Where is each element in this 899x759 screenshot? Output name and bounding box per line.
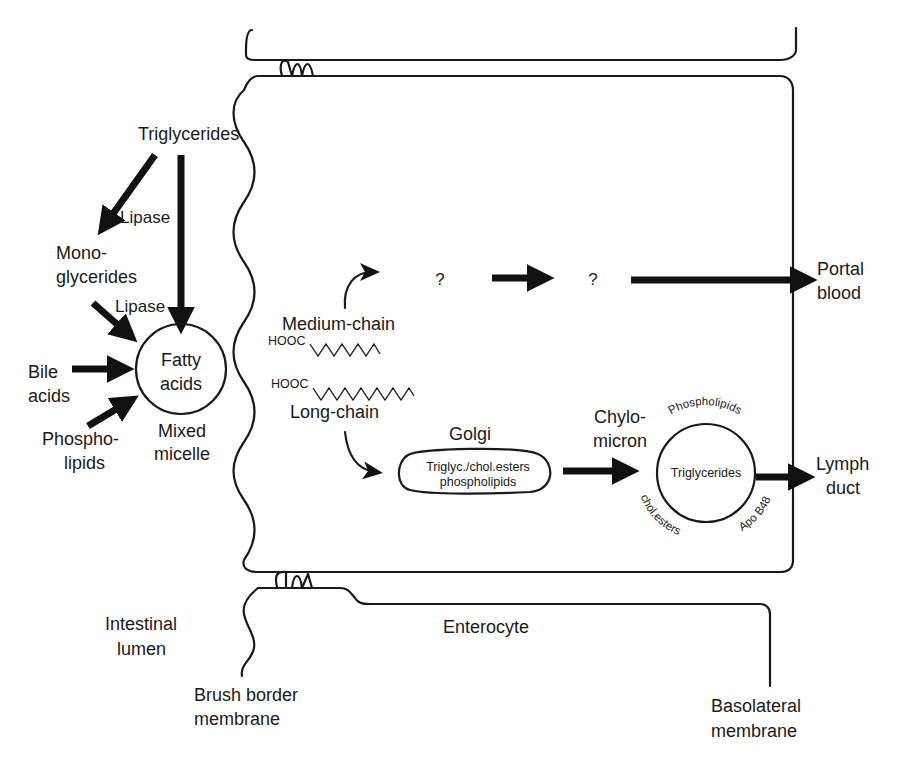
tight-junction-bottom	[276, 572, 312, 588]
medium-chain-curved-arrow	[345, 272, 372, 308]
chylomicron-cholesterol-esters-label: chol.esters	[639, 492, 683, 537]
medium-chain-label: Medium-chain	[282, 314, 395, 334]
upper-neighbor-cell-outline	[246, 28, 796, 60]
unknown-intermediate-1: ?	[435, 270, 444, 289]
chylomicron-phospholipids-label: Phospholipids	[666, 395, 744, 416]
chylomicron-core-label: Triglycerides	[671, 466, 741, 480]
lymph-duct-label-line2: duct	[826, 478, 860, 498]
unknown-intermediate-2: ?	[588, 270, 597, 289]
phospholipids-label-line1: Phospho-	[42, 429, 119, 449]
monoglycerides-label-line1: Mono-	[56, 243, 107, 263]
basolateral-label-line1: Basolateral	[711, 696, 801, 716]
lipase-label-1: Lipase	[120, 208, 170, 227]
golgi-label: Golgi	[449, 424, 491, 444]
bile-acids-label-line1: Bile	[28, 362, 58, 382]
phospholipids-to-micelle-arrow	[88, 402, 128, 426]
lower-neighbor-cell-outline	[242, 588, 770, 686]
intestinal-lumen-label-line1: Intestinal	[105, 614, 177, 634]
phospholipids-label-line2: lipids	[64, 453, 105, 473]
hooc-label-long: HOOC	[271, 377, 309, 391]
tight-junction-top	[281, 61, 313, 76]
intestinal-lumen-label-line2: lumen	[117, 639, 166, 659]
golgi-content-line2: phospholipids	[440, 475, 516, 489]
fatty-acid-absorption-diagram: Triglycerides Lipase Mono- glycerides Li…	[0, 0, 899, 759]
long-chain-label: Long-chain	[290, 402, 379, 422]
lymph-duct-label-line1: Lymph	[816, 454, 869, 474]
bile-acids-label-line2: acids	[28, 386, 70, 406]
mixed-micelle-label-line1: Mixed	[158, 421, 206, 441]
portal-blood-label-line1: Portal	[817, 259, 864, 279]
long-chain-zigzag	[313, 388, 414, 400]
golgi-content-line1: Triglyc./chol.esters	[426, 460, 530, 474]
chylomicron-label-line1: Chylo-	[594, 407, 646, 427]
chylomicron-label-line2: micron	[593, 431, 647, 451]
mixed-micelle-label-line2: micelle	[154, 444, 210, 464]
lipase-label-2: Lipase	[115, 297, 165, 316]
hooc-label-medium: HOOC	[268, 334, 306, 348]
triglycerides-label: Triglycerides	[138, 124, 239, 144]
micelle-core-line2: acids	[160, 374, 202, 394]
monoglycerides-label-line2: glycerides	[56, 267, 137, 287]
portal-blood-label-line2: blood	[817, 283, 861, 303]
enterocyte-label: Enterocyte	[443, 617, 529, 637]
brush-border-label-line1: Brush border	[194, 685, 298, 705]
chylomicron-apob48-label: Apo B48	[736, 494, 772, 533]
brush-border-label-line2: membrane	[194, 709, 280, 729]
micelle-core-line1: Fatty	[161, 350, 201, 370]
basolateral-label-line2: membrane	[711, 721, 797, 741]
medium-chain-zigzag	[310, 344, 380, 356]
long-chain-curved-arrow	[345, 432, 375, 472]
